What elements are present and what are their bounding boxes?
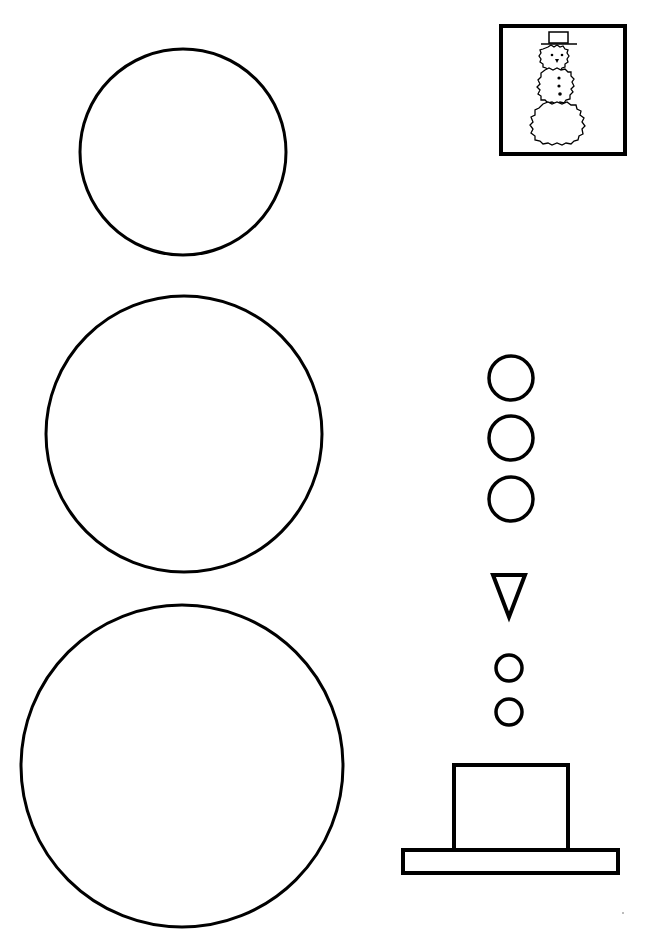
body-circle-piece: [46, 296, 322, 572]
button-piece-2: [489, 416, 533, 460]
template-canvas: [0, 0, 652, 950]
craft-page: [0, 0, 652, 950]
head-circle-piece: [80, 49, 286, 255]
base-circle-piece: [21, 605, 343, 927]
snowman-preview-thumbnail: [501, 26, 625, 154]
hat-brim-piece: [403, 850, 618, 873]
button-piece-3: [489, 477, 533, 521]
hat-crown-piece: [454, 765, 568, 850]
nose-triangle-piece: [493, 575, 525, 617]
speck: [622, 912, 624, 914]
eye-piece-1: [496, 655, 522, 681]
snowman-body-icon: [537, 68, 574, 104]
snowman-base-icon: [530, 102, 585, 145]
eye-piece-2: [496, 699, 522, 725]
button-piece-1: [489, 356, 533, 400]
